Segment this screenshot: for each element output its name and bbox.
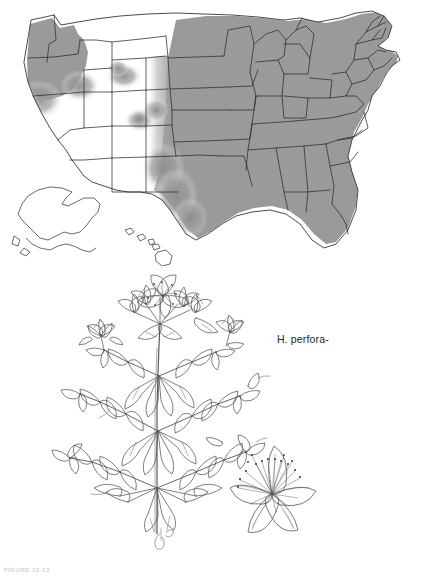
map-svg [0, 0, 422, 268]
plant-illustration [0, 266, 422, 556]
illustration-background [0, 266, 422, 556]
region-w-idaho-fade [60, 70, 100, 102]
figure-caption: FIGURE 12-13 [4, 566, 304, 577]
us-distribution-map [0, 0, 422, 268]
figure-plate: H. perfora- FIGURE 12-13 [0, 0, 422, 577]
plant-svg [0, 266, 422, 556]
species-label: H. perfora- [277, 333, 329, 346]
